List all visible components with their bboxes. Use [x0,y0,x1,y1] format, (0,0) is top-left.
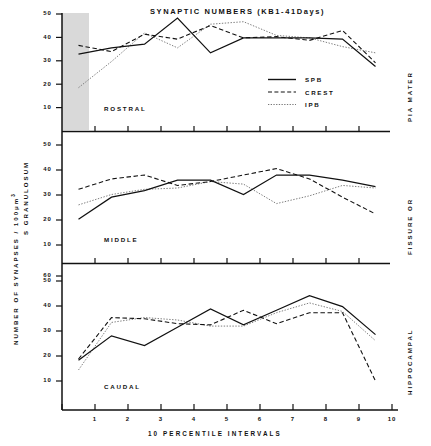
ytick-rostral-30: 30 [30,57,52,63]
xtick-6: 6 [250,416,270,422]
ytick-middle-50: 50 [30,141,52,147]
panel-label-caudal: CAUDAL [104,383,141,390]
chart-canvas [0,0,431,446]
xticks-bottom [62,404,392,410]
right-label-pia-mater: PIA MATER [406,71,413,122]
xtick-3: 3 [151,416,171,422]
line-rostral-crest [79,25,376,62]
ytick-rostral-40: 40 [30,34,52,40]
yticks-middle [56,145,62,245]
yaxis-title-main-text: NUMBER OF SYNAPSES / 100 [12,210,19,345]
line-caudal-crest [79,310,376,381]
line-caudal-spb [79,296,376,361]
xaxis-title: 10 PERCENTILE INTERVALS [148,430,282,437]
xtick-1: 1 [85,416,105,422]
yaxis-title-exponent: 3 [11,192,16,197]
legend-label-spb: SPB [305,76,323,83]
xtick-8: 8 [316,416,336,422]
series-middle [79,169,376,220]
line-middle-spb [79,175,376,219]
panel-label-middle: MIDDLE [104,236,139,243]
ytick-rostral-20: 20 [30,81,52,87]
xtick-5: 5 [217,416,237,422]
yaxis-title-main: NUMBER OF SYNAPSES / 100μm3 [11,192,19,345]
line-rostral-spb [79,18,376,67]
right-label-fissure-or: FISSURE OR [406,198,413,255]
yaxis-title-secondary: S GRANULOSUM [22,161,29,235]
ytick-rostral-50: 50 [30,10,52,16]
ytick-caudal-10: 10 [30,377,52,383]
legend-label-crest: CREST [305,89,334,96]
figure-root: SYNAPTIC NUMBERS (KB1-41Days) [0,0,431,446]
legend-label-ipb: IPB [305,101,320,108]
xticks-sep2 [95,258,359,264]
line-middle-crest [79,169,376,214]
xtick-4: 4 [184,416,204,422]
yticks-rostral [56,14,62,108]
ytick-caudal-20: 20 [30,352,52,358]
line-middle-ipb [79,182,376,205]
xtick-10: 10 [382,416,402,422]
panel-label-rostral: ROSTRAL [104,105,147,112]
xtick-2: 2 [118,416,138,422]
yaxis-title-units: μm [12,197,19,210]
xticks-sep1 [95,126,359,132]
ytick-middle-40: 40 [30,166,52,172]
ytick-rostral-10: 10 [30,104,52,110]
ytick-caudal-60: 60 [30,272,52,278]
yticks-caudal [56,276,62,381]
xtick-9: 9 [349,416,369,422]
ytick-middle-30: 30 [30,191,52,197]
ytick-caudal-30: 30 [30,327,52,333]
series-caudal [79,296,376,381]
ytick-middle-10: 10 [30,241,52,247]
ytick-middle-20: 20 [30,216,52,222]
xtick-7: 7 [283,416,303,422]
right-label-hippocampal: HIPPOCAMPAL [406,328,413,395]
series-rostral [79,18,376,88]
ytick-caudal-40: 40 [30,302,52,308]
legend-samples [268,80,296,105]
